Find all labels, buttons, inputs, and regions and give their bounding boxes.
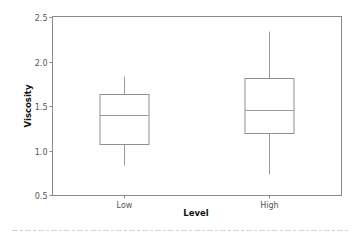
y-axis-title: Viscosity: [23, 84, 33, 127]
x-tick-label: Low: [117, 201, 133, 210]
x-tick-label: High: [260, 201, 278, 210]
plot-frame: [53, 17, 342, 196]
box-low: [100, 77, 149, 166]
y-tick-label: 1.5: [35, 103, 48, 112]
boxes: [100, 32, 294, 175]
box-plot-chart: 0.51.01.52.02.5 LowHigh Level Viscosity: [0, 0, 359, 236]
box-high: [245, 32, 294, 175]
y-tick-label: 2.0: [35, 59, 48, 68]
iqr-box: [245, 79, 294, 134]
iqr-box: [100, 95, 149, 145]
y-tick-label: 1.0: [35, 148, 48, 157]
y-axis: 0.51.01.52.02.5: [35, 14, 53, 201]
y-tick-label: 0.5: [35, 192, 48, 201]
x-axis-title: Level: [183, 208, 208, 218]
y-tick-label: 2.5: [35, 14, 48, 23]
